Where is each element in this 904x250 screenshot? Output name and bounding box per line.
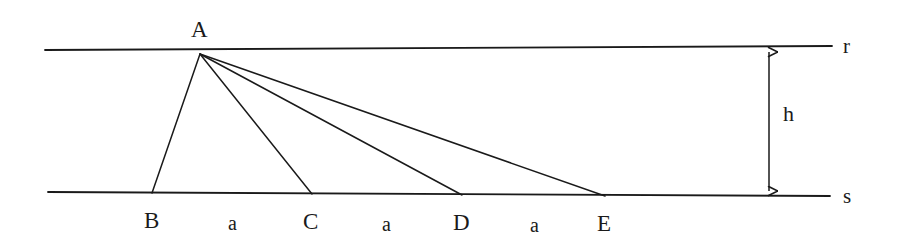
vertex-label-c: C <box>303 210 318 233</box>
line-label-r: r <box>843 36 850 57</box>
segment-ab <box>152 54 200 193</box>
segment-label-cd: a <box>382 214 391 234</box>
segment-ad <box>200 54 462 195</box>
line-s-stroke <box>48 192 830 196</box>
vertex-label-e: E <box>597 212 611 235</box>
geometry-diagram: A r s B C D E a a a h <box>0 0 904 250</box>
segment-label-de: a <box>530 215 539 235</box>
vertex-label-b: B <box>144 209 159 232</box>
segment-label-bc: a <box>228 213 237 233</box>
height-label-h: h <box>783 103 794 125</box>
diagram-canvas <box>0 0 904 250</box>
line-r-stroke <box>45 46 832 50</box>
vertex-label-a: A <box>191 18 208 41</box>
line-label-s: s <box>843 186 851 207</box>
segment-ac <box>200 54 312 194</box>
vertex-label-d: D <box>453 211 470 234</box>
segment-ae <box>200 54 605 196</box>
